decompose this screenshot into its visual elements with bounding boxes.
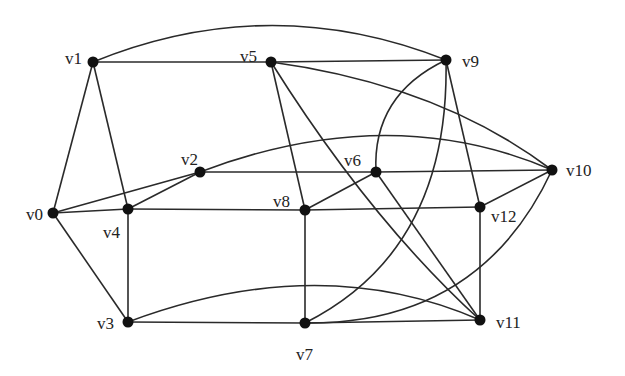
node-label-v7: v7: [296, 345, 314, 364]
edge-v9-v6: [376, 60, 446, 172]
edge-v6-v8: [305, 172, 376, 210]
node-v11: [475, 315, 486, 326]
node-label-v10: v10: [566, 161, 592, 180]
node-label-v12: v12: [491, 207, 517, 226]
labels-group: v0v1v2v3v4v5v6v7v8v9v10v11v12: [26, 47, 592, 364]
edge-v6-v10: [376, 170, 552, 172]
node-v7: [300, 318, 311, 329]
node-v9: [441, 55, 452, 66]
node-label-v3: v3: [97, 314, 114, 333]
edge-v7-v11: [305, 320, 480, 323]
node-v12: [475, 202, 486, 213]
edge-v2-v4: [128, 172, 200, 209]
edge-v5-v11: [271, 62, 480, 320]
node-label-v2: v2: [181, 150, 198, 169]
edge-v5-v8: [271, 62, 305, 210]
node-v5: [266, 57, 277, 68]
node-v4: [123, 204, 134, 215]
edge-v3-v7: [128, 322, 305, 323]
edge-v5-v9: [271, 60, 446, 62]
node-v8: [300, 205, 311, 216]
node-label-v11: v11: [496, 313, 521, 332]
edge-v1-v9: [93, 25, 446, 62]
edge-v10-v12: [480, 170, 552, 207]
graph-canvas: v0v1v2v3v4v5v6v7v8v9v10v11v12: [0, 0, 625, 376]
edge-v6-v11: [376, 172, 480, 320]
node-v10: [547, 165, 558, 176]
node-v3: [123, 317, 134, 328]
node-v6: [371, 167, 382, 178]
edge-v8-v12: [305, 207, 480, 210]
node-label-v1: v1: [65, 49, 82, 68]
node-v0: [48, 208, 59, 219]
node-label-v6: v6: [344, 151, 361, 170]
node-label-v8: v8: [273, 192, 290, 211]
edge-v9-v12: [446, 60, 480, 207]
node-v1: [88, 57, 99, 68]
edge-v3-v11: [128, 285, 480, 322]
node-label-v5: v5: [240, 47, 257, 66]
node-label-v9: v9: [462, 52, 479, 71]
node-label-v4: v4: [103, 223, 121, 242]
edge-v1-v4: [93, 62, 128, 209]
edge-v1-v0: [53, 62, 93, 213]
node-label-v0: v0: [26, 205, 43, 224]
